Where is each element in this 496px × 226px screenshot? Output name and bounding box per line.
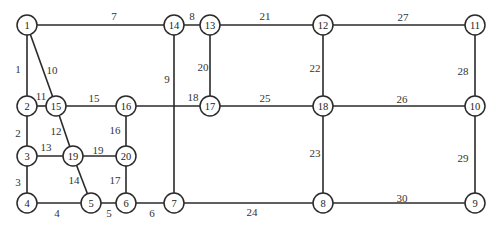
node-20: 20: [116, 146, 136, 166]
edge-label: 20: [198, 61, 210, 73]
edge-label: 26: [397, 93, 409, 105]
edge-label: 19: [93, 144, 105, 156]
node-label: 17: [205, 101, 216, 112]
node-label: 4: [24, 198, 30, 209]
edge-label: 16: [110, 124, 122, 136]
edge-label: 24: [247, 206, 259, 218]
network-diagram: 1234567891011121314151617181920212223242…: [0, 0, 496, 226]
node-label: 3: [24, 151, 29, 162]
edge-label: 3: [15, 176, 21, 188]
node-label: 15: [51, 101, 62, 112]
node-label: 20: [121, 151, 132, 162]
node-15: 15: [46, 96, 66, 116]
edge-label: 14: [69, 174, 81, 186]
node-label: 19: [68, 151, 79, 162]
edge-label: 8: [189, 10, 195, 22]
edge-label: 15: [89, 92, 101, 104]
edge-label: 29: [458, 152, 470, 164]
node-label: 13: [205, 20, 216, 31]
edge-label: 5: [106, 207, 112, 219]
node-7: 7: [164, 193, 184, 213]
edge-label: 23: [310, 147, 322, 159]
node-label: 10: [470, 101, 481, 112]
node-18: 18: [313, 96, 333, 116]
node-12: 12: [313, 15, 333, 35]
nodes-layer: 1141312112151617181031920456789: [17, 15, 485, 213]
edge-label: 7: [111, 10, 117, 22]
node-label: 2: [24, 101, 29, 112]
node-label: 5: [88, 198, 93, 209]
node-10: 10: [465, 96, 485, 116]
edge-label: 9: [164, 73, 170, 85]
edge-label: 4: [54, 207, 60, 219]
node-5: 5: [81, 193, 101, 213]
node-13: 13: [200, 15, 220, 35]
node-label: 16: [121, 101, 132, 112]
node-2: 2: [17, 96, 37, 116]
node-17: 17: [200, 96, 220, 116]
edge-label: 13: [41, 141, 53, 153]
edge-labels-layer: 1234567891011121314151617181920212223242…: [15, 10, 469, 219]
edge-label: 1: [15, 63, 21, 75]
edge-label: 11: [36, 90, 47, 102]
node-19: 19: [63, 146, 83, 166]
edge-label: 27: [398, 11, 410, 23]
edge-label: 18: [188, 91, 200, 103]
node-label: 12: [318, 20, 329, 31]
edge-label: 30: [397, 192, 409, 204]
node-label: 9: [472, 198, 477, 209]
node-label: 14: [169, 20, 180, 31]
node-16: 16: [116, 96, 136, 116]
node-label: 11: [470, 20, 480, 31]
node-6: 6: [116, 193, 136, 213]
node-11: 11: [465, 15, 485, 35]
edge-label: 25: [260, 92, 272, 104]
node-14: 14: [164, 15, 184, 35]
node-label: 18: [318, 101, 329, 112]
graph-svg: 1234567891011121314151617181920212223242…: [0, 0, 496, 226]
node-3: 3: [17, 146, 37, 166]
edge-label: 28: [458, 65, 470, 77]
node-1: 1: [17, 15, 37, 35]
node-8: 8: [313, 193, 333, 213]
node-label: 1: [24, 20, 29, 31]
edges-layer: [27, 25, 475, 203]
edge-label: 22: [310, 62, 321, 74]
node-label: 7: [171, 198, 176, 209]
edge-label: 6: [149, 207, 155, 219]
edge-label: 12: [51, 125, 62, 137]
edge-label: 2: [15, 127, 21, 139]
node-label: 6: [123, 198, 128, 209]
node-9: 9: [465, 193, 485, 213]
edge-label: 17: [110, 174, 122, 186]
node-label: 8: [320, 198, 325, 209]
edge-label: 21: [260, 10, 271, 22]
node-4: 4: [17, 193, 37, 213]
edge-label: 10: [47, 64, 59, 76]
